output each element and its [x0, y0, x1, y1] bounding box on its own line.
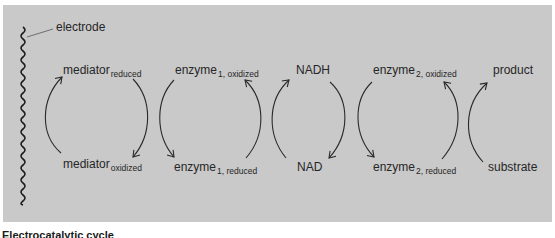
arrow-nadh-to-nad [329, 82, 345, 158]
electrode-label: electrode [56, 20, 105, 34]
label-product: product [493, 63, 533, 77]
label-enzyme1-reduced: enzyme1, reduced [174, 160, 257, 175]
arrow-enzyme1-red-to-ox [245, 80, 261, 158]
label-base: enzyme [373, 63, 415, 77]
label-base: NADH [296, 63, 330, 77]
label-enzyme2-oxidized: enzyme2, oxidized [373, 63, 457, 78]
label-subscript: reduced [111, 69, 142, 79]
arrow-enzyme1-ox-to-red [160, 80, 174, 157]
arrow-substrate-to-product [468, 83, 487, 162]
label-base: NAD [297, 160, 322, 174]
label-base: substrate [488, 160, 537, 174]
label-subscript: 2, reduced [416, 166, 456, 176]
label-base: product [493, 63, 533, 77]
arrow-enzyme2-red-to-ox [442, 82, 458, 159]
label-enzyme2-reduced: enzyme2, reduced [373, 160, 456, 175]
label-base: enzyme [373, 160, 415, 174]
electrode-wave-icon [21, 27, 25, 205]
label-subscript: 2, oxidized [416, 69, 457, 79]
label-base: enzyme [175, 63, 217, 77]
label-nadh: NADH [296, 63, 330, 77]
label-base: enzyme [174, 160, 216, 174]
electrode-leader-line [27, 29, 53, 37]
label-subscript: 1, reduced [217, 166, 257, 176]
label-mediator-oxidized: mediatoroxidized [63, 157, 142, 172]
label-nad: NAD [297, 160, 322, 174]
diagram-arrows [0, 0, 555, 238]
label-enzyme1-oxidized: enzyme1, oxidized [175, 63, 259, 78]
arrow-mediator-red-to-ox [133, 79, 148, 157]
label-base: mediator [63, 63, 110, 77]
arrow-nad-to-nadh [272, 80, 289, 158]
label-substrate: substrate [488, 160, 537, 174]
label-mediator-reduced: mediatorreduced [63, 63, 141, 78]
arrow-enzyme2-ox-to-red [358, 82, 374, 157]
label-subscript: oxidized [111, 163, 142, 173]
label-base: mediator [63, 157, 110, 171]
figure-caption: Electrocatalytic cycle [2, 229, 114, 238]
label-subscript: 1, oxidized [218, 69, 259, 79]
arrow-mediator-ox-to-red [45, 77, 62, 153]
